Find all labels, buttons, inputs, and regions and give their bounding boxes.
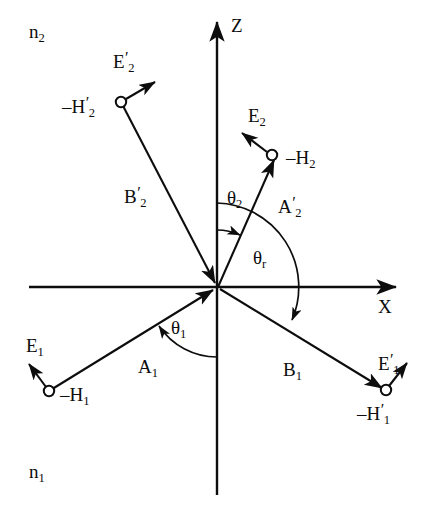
field-label-h1-prime: –H′1 — [357, 402, 390, 426]
angle-label-theta-2: θ2 — [227, 188, 242, 210]
field-label-h1-prime-base: –H — [357, 403, 380, 424]
field-circle-h2 — [267, 150, 277, 160]
angle-label-theta-r-base: θ — [253, 247, 262, 268]
e2-vector — [242, 133, 267, 152]
field-label-h1-base: –H — [60, 384, 83, 405]
angle-label-theta-2-sub: 2 — [236, 197, 242, 211]
medium-label-n2-base: n — [29, 21, 39, 42]
field-label-e1: E1 — [26, 336, 44, 358]
field-circle-h2-prime — [116, 97, 126, 107]
ray-label-a2-prime-base: A — [278, 196, 292, 217]
ray-label-b2-prime-sub: 2 — [140, 196, 146, 210]
e2-prime-vector — [126, 82, 155, 99]
angle-label-theta-1: θ1 — [171, 318, 186, 340]
ray-label-a2-prime: A′2 — [278, 195, 302, 219]
axis-label-z: Z — [231, 16, 243, 35]
field-label-e1-sub: 1 — [38, 345, 44, 359]
angle-arc-theta-2 — [217, 230, 240, 235]
field-label-e1-prime-base: E — [378, 353, 390, 374]
incident-ray-a1 — [49, 290, 213, 391]
field-label-e2-sub: 2 — [260, 115, 266, 129]
field-label-h2-prime-sub: 2 — [89, 106, 95, 120]
field-label-h1-sub: 1 — [83, 394, 89, 408]
diagram-canvas — [0, 0, 436, 522]
field-label-h1-prime-sub: 1 — [384, 413, 390, 427]
ray-label-a1-base: A — [138, 356, 152, 377]
ray-label-b2-prime: B′2 — [124, 185, 147, 209]
ray-group — [49, 102, 382, 391]
axis-group — [29, 22, 396, 495]
medium-label-n2-sub: 2 — [39, 31, 45, 45]
field-label-e1-prime-sub: 1 — [393, 363, 399, 377]
ray-label-b2-prime-base: B — [124, 186, 137, 207]
field-label-h2-sub: 2 — [309, 157, 315, 171]
angle-label-theta-r: θr — [253, 248, 266, 270]
angle-arc-theta-1 — [159, 326, 217, 357]
field-label-h2: –H2 — [286, 148, 316, 170]
field-label-e1-prime: E′1 — [378, 352, 399, 376]
field-label-h2-base: –H — [286, 147, 309, 168]
figure-root: n2 n1 Z X A1 B1 A′2 B′2 E1 E′1 E2 E′2 –H… — [0, 0, 436, 522]
angle-label-theta-r-sub: r — [262, 257, 266, 271]
field-label-e2-base: E — [248, 105, 260, 126]
ray-label-a1: A1 — [138, 357, 158, 379]
axis-label-x: X — [378, 297, 392, 316]
e1-vector — [29, 364, 46, 387]
field-label-h1: –H1 — [60, 385, 90, 407]
field-label-e2-prime-sub: 2 — [128, 61, 134, 75]
angle-label-theta-1-base: θ — [171, 317, 180, 338]
ray-label-b1-sub: 1 — [296, 369, 302, 383]
angle-label-theta-2-base: θ — [227, 187, 236, 208]
ray-label-a2-prime-sub: 2 — [295, 206, 301, 220]
angle-label-theta-1-sub: 1 — [180, 327, 186, 341]
ray-label-b1-base: B — [283, 359, 296, 380]
medium-label-n2: n2 — [29, 22, 45, 44]
field-label-e2-prime: E′2 — [113, 50, 134, 74]
field-label-h2-prime-base: –H — [62, 96, 85, 117]
medium-label-n1-base: n — [29, 461, 39, 482]
ray-label-a1-sub: 1 — [152, 366, 158, 380]
medium-label-n1: n1 — [29, 462, 45, 484]
field-label-h2-prime: –H′2 — [62, 95, 95, 119]
field-label-e2: E2 — [248, 106, 266, 128]
ray-label-b1: B1 — [283, 360, 302, 382]
field-label-e1-base: E — [26, 335, 38, 356]
field-label-e2-prime-base: E — [113, 51, 125, 72]
medium-label-n1-sub: 1 — [39, 471, 45, 485]
